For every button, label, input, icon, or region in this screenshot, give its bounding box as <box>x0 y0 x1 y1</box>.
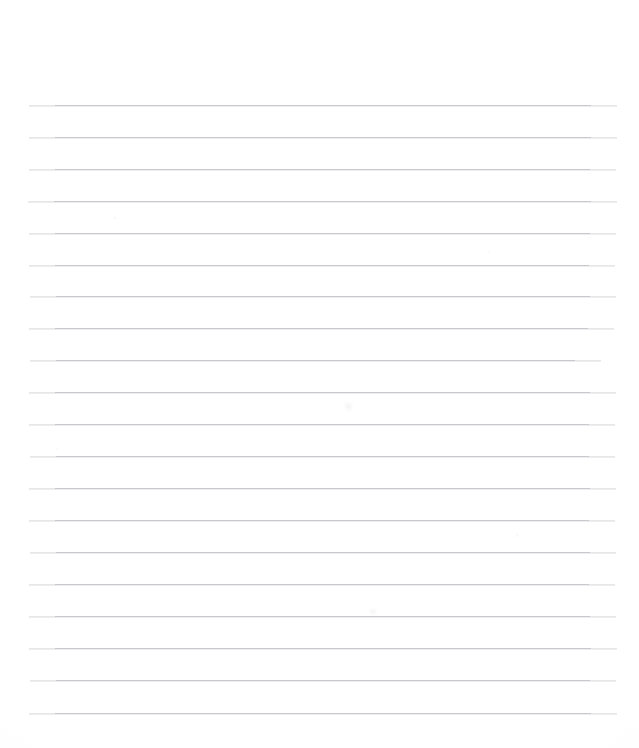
rule-line <box>29 265 615 266</box>
rule-line <box>29 488 616 489</box>
rule-line <box>28 201 617 202</box>
notebook-page <box>0 0 639 748</box>
rule-line <box>29 713 617 714</box>
rule-line <box>29 328 614 329</box>
rule-line <box>29 169 616 170</box>
rule-line <box>29 520 615 521</box>
rule-line <box>29 616 616 617</box>
rule-line <box>30 680 616 681</box>
rule-line <box>29 424 615 425</box>
rule-line <box>29 648 617 649</box>
rule-line <box>29 233 616 234</box>
rule-line <box>30 296 616 297</box>
rule-line <box>30 456 615 457</box>
rule-line <box>29 392 616 393</box>
rule-line <box>29 584 615 585</box>
rule-line <box>30 552 616 553</box>
rule-line <box>29 137 617 138</box>
ruled-lines-group <box>0 0 639 748</box>
rule-line <box>30 360 601 361</box>
page-text-content <box>28 105 617 106</box>
